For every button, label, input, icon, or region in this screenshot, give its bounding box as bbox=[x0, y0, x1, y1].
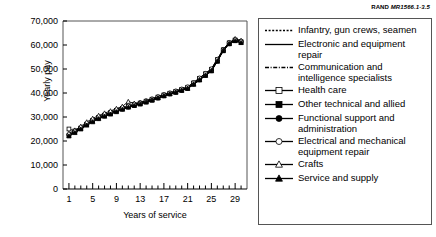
legend-item[interactable]: Electronic and equipment repair bbox=[263, 38, 428, 60]
plot-area bbox=[62, 20, 248, 190]
y-tick-label: 20,000 bbox=[14, 137, 58, 146]
legend-sample-solid-line bbox=[263, 38, 295, 51]
legend-item[interactable]: Crafts bbox=[263, 158, 428, 171]
y-tick-label: 10,000 bbox=[14, 161, 58, 170]
y-tick-label: 0 bbox=[14, 185, 58, 194]
data-point-marker bbox=[276, 102, 282, 108]
legend-sample-dotted-line bbox=[263, 24, 295, 37]
y-axis-ticks bbox=[63, 21, 67, 189]
y-tick-label: 50,000 bbox=[14, 65, 58, 74]
x-axis-title: Years of service bbox=[62, 210, 248, 220]
plot-svg bbox=[62, 20, 248, 190]
legend-label: Health care bbox=[295, 84, 347, 95]
data-series-group bbox=[67, 36, 243, 137]
legend-item[interactable]: Functional support and administration bbox=[263, 112, 428, 134]
legend-label: Infantry, gun crews, seamen bbox=[295, 24, 417, 35]
y-tick-label: 60,000 bbox=[14, 41, 58, 50]
legend-label: Electronic and equipment repair bbox=[295, 38, 428, 60]
legend-label: Functional support and administration bbox=[295, 112, 428, 134]
x-axis-ticks bbox=[69, 183, 241, 189]
legend-sample-open-square-marker bbox=[263, 84, 295, 97]
chart-figure: Yearly pay 010,00020,00030,00040,00050,0… bbox=[0, 0, 436, 237]
legend-item[interactable]: Electrical and mechanical equipment repa… bbox=[263, 135, 428, 157]
x-tick-label: 17 bbox=[159, 195, 169, 204]
data-point-marker bbox=[276, 139, 282, 145]
y-axis-tick-labels: 010,00020,00030,00040,00050,00060,00070,… bbox=[10, 0, 58, 237]
data-point-marker bbox=[276, 116, 282, 122]
legend-label: Service and supply bbox=[295, 172, 378, 183]
legend-sample-dashdot-line bbox=[263, 61, 295, 74]
x-axis-tick-labels: 1591317212529 bbox=[62, 195, 248, 207]
y-tick-label: 40,000 bbox=[14, 89, 58, 98]
legend-label: Crafts bbox=[295, 158, 323, 169]
chart-legend: Infantry, gun crews, seamenElectronic an… bbox=[258, 18, 432, 225]
x-tick-label: 13 bbox=[135, 195, 145, 204]
legend-sample-filled-triangle-marker bbox=[263, 172, 295, 185]
legend-item[interactable]: Infantry, gun crews, seamen bbox=[263, 24, 428, 37]
legend-sample-filled-circle-marker bbox=[263, 112, 295, 125]
x-tick-label: 25 bbox=[206, 195, 216, 204]
legend-label: Other technical and allied bbox=[295, 98, 405, 109]
legend-label: Electrical and mechanical equipment repa… bbox=[295, 135, 428, 157]
legend-sample-open-triangle-marker bbox=[263, 158, 295, 171]
legend-label: Communication and intelligence specialis… bbox=[295, 61, 428, 83]
data-point-marker bbox=[276, 88, 282, 94]
x-tick-label: 21 bbox=[183, 195, 193, 204]
legend-list: Infantry, gun crews, seamenElectronic an… bbox=[263, 24, 428, 186]
legend-sample-filled-square-marker bbox=[263, 98, 295, 111]
x-tick-label: 5 bbox=[90, 195, 95, 204]
y-tick-label: 30,000 bbox=[14, 113, 58, 122]
plot-frame bbox=[63, 21, 247, 189]
legend-item[interactable]: Communication and intelligence specialis… bbox=[263, 61, 428, 83]
x-tick-label: 29 bbox=[230, 195, 240, 204]
x-tick-label: 1 bbox=[66, 195, 71, 204]
data-series bbox=[67, 39, 243, 138]
legend-sample-open-circle-marker bbox=[263, 135, 295, 148]
x-tick-label: 9 bbox=[114, 195, 119, 204]
legend-item[interactable]: Service and supply bbox=[263, 172, 428, 185]
data-point-marker bbox=[126, 99, 130, 103]
legend-item[interactable]: Other technical and allied bbox=[263, 98, 428, 111]
y-tick-label: 70,000 bbox=[14, 17, 58, 26]
legend-item[interactable]: Health care bbox=[263, 84, 428, 97]
